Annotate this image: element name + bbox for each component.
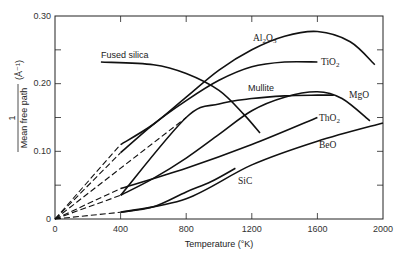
label-al2o3: Al2O3 <box>253 33 277 45</box>
chart: 0 0.10 0.20 0.30 0 400 800 1200 1600 200… <box>0 0 400 256</box>
label-tio2: TiO2 <box>321 57 340 69</box>
curve-mullite <box>121 95 334 195</box>
label-mullite: Mullite <box>248 83 274 93</box>
x-tick-0: 0 <box>52 224 57 234</box>
y-label-unit: (Å⁻¹) <box>14 60 24 80</box>
x-tick-800: 800 <box>179 224 194 234</box>
label-beo: BeO <box>319 140 337 150</box>
x-tick-1600: 1600 <box>307 224 327 234</box>
y-label-denominator: Mean free path <box>19 88 29 149</box>
label-sic: SiC <box>238 176 252 186</box>
label-tho2: ThO2 <box>319 113 340 125</box>
label-mgo: MgO <box>349 90 369 100</box>
y-tick-0.30: 0.30 <box>33 11 51 21</box>
curve-beo <box>121 123 383 212</box>
y-axis-label: 1 Mean free path (Å⁻¹) <box>7 60 29 152</box>
x-tick-2000: 2000 <box>373 224 393 234</box>
x-tick-400: 400 <box>113 224 128 234</box>
curve-tio2 <box>121 62 318 153</box>
curve-tio2-extrapolation <box>55 153 121 219</box>
y-tick-0.10: 0.10 <box>33 146 51 156</box>
x-axis-label: Temperature (°K) <box>185 239 254 249</box>
y-tick-0.20: 0.20 <box>33 78 51 88</box>
label-fused-silica: Fused silica <box>101 50 149 60</box>
curve-al2o3-extrapolation <box>55 145 121 219</box>
y-tick-0: 0 <box>46 214 51 224</box>
y-label-numerator: 1 <box>7 115 17 120</box>
x-tick-1200: 1200 <box>242 224 262 234</box>
